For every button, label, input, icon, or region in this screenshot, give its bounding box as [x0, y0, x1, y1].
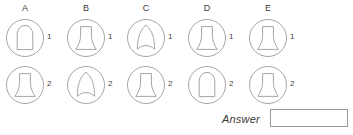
cell-number-label: 1: [290, 32, 294, 41]
answer-label: Answer: [222, 113, 260, 125]
inner-shape-bell-icon: [15, 74, 35, 97]
column-letter-d: D: [197, 3, 217, 13]
shape-cell-b2[interactable]: 2: [66, 64, 120, 108]
shape-circle-outline: [68, 20, 105, 57]
shape-cell-a2[interactable]: 2: [5, 64, 59, 108]
inner-shape-bell-icon: [136, 74, 156, 97]
cell-number-label: 1: [168, 32, 172, 41]
shape-cell-e2[interactable]: 2: [248, 64, 302, 108]
shape-cell-c2[interactable]: 2: [126, 64, 180, 108]
column-letter-c: C: [136, 3, 156, 13]
shape-cell-c1[interactable]: 1: [126, 17, 180, 61]
shape-circle-outline: [128, 67, 165, 104]
inner-shape-arch-dome-icon: [199, 72, 215, 96]
shape-puzzle: A12B12C12D12E12Answer: [0, 0, 353, 135]
cell-number-label: 2: [229, 79, 233, 88]
column-letter-a: A: [15, 3, 35, 13]
shape-circle-outline: [250, 20, 287, 57]
column-letter-e: E: [258, 3, 278, 13]
cell-number-label: 2: [47, 79, 51, 88]
cell-number-label: 1: [108, 32, 112, 41]
inner-shape-bell-icon: [197, 27, 217, 50]
cell-number-label: 2: [108, 79, 112, 88]
shape-cell-d2[interactable]: 2: [187, 64, 241, 108]
column-letter-b: B: [76, 3, 96, 13]
cell-number-label: 2: [168, 79, 172, 88]
cell-number-label: 1: [47, 32, 51, 41]
shape-circle-outline: [250, 67, 287, 104]
inner-shape-pointed-leaf-icon: [137, 25, 154, 49]
shape-circle-outline: [7, 67, 44, 104]
inner-shape-bell-icon: [76, 27, 96, 50]
inner-shape-pointed-leaf-icon: [77, 72, 94, 96]
shape-circle-outline: [189, 20, 226, 57]
shape-cell-b1[interactable]: 1: [66, 17, 120, 61]
inner-shape-arch-dome-icon: [17, 25, 33, 49]
inner-shape-bell-icon: [258, 74, 278, 97]
answer-input[interactable]: [270, 109, 348, 127]
cell-number-label: 2: [290, 79, 294, 88]
inner-shape-bell-icon: [258, 27, 278, 50]
shape-cell-d1[interactable]: 1: [187, 17, 241, 61]
shape-cell-e1[interactable]: 1: [248, 17, 302, 61]
shape-cell-a1[interactable]: 1: [5, 17, 59, 61]
answer-row: Answer: [222, 109, 350, 130]
cell-number-label: 1: [229, 32, 233, 41]
